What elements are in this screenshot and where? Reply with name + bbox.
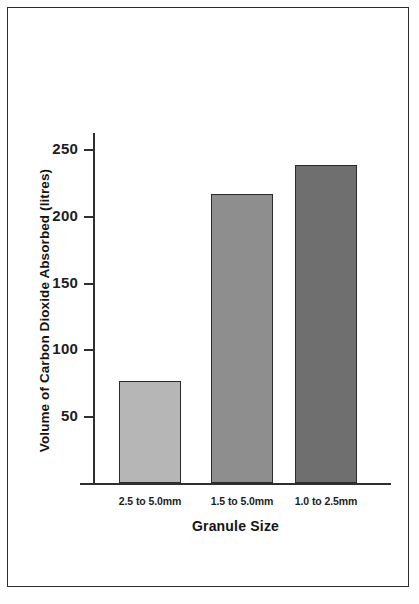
bar-3[interactable] (295, 165, 357, 483)
x-tick-label-1: 2.5 to 5.0mm (100, 495, 200, 507)
x-axis-line (80, 483, 391, 485)
x-tick-label-3: 1.0 to 2.5mm (276, 495, 376, 507)
x-axis-title: Granule Size (80, 518, 391, 534)
y-tick-mark (84, 349, 94, 351)
y-tick-mark (84, 283, 94, 285)
y-tick-mark (84, 216, 94, 218)
bar-2[interactable] (211, 194, 273, 483)
bar-chart-plot-area: 50100150200250 2.5 to 5.0mm1.5 to 5.0mm1… (0, 0, 419, 604)
bar-1[interactable] (119, 381, 181, 483)
y-axis-title: Volume of Carbon Dioxide Absorbed (litre… (37, 146, 52, 476)
y-tick-mark (84, 149, 94, 151)
y-axis-line (93, 133, 95, 484)
figure-canvas: 50100150200250 2.5 to 5.0mm1.5 to 5.0mm1… (0, 0, 419, 604)
y-tick-mark (84, 416, 94, 418)
